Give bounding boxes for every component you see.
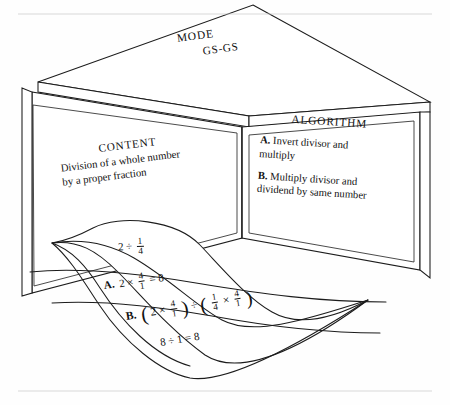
row-2-c-numerator: 4 <box>233 288 241 298</box>
algorithm-item-b: B. Multiply divisor and dividend by same… <box>257 168 368 202</box>
row-2-close-paren-1: ) <box>180 296 190 319</box>
algorithm-item-b-label: B. <box>258 169 268 181</box>
row-2-b-denominator: 4 <box>212 302 220 313</box>
row-1-operator: × <box>126 275 134 288</box>
row-2-middle-operator: ÷ <box>190 298 198 311</box>
algorithm-item-a: A. Invert divisor and multiply <box>259 133 370 167</box>
row-2-fraction-b: 1 4 <box>210 292 220 313</box>
banner-row-0: 2 ÷ 1 4 <box>117 237 146 258</box>
row-3-lead: 8 <box>159 335 166 348</box>
row-1-lead: 2 <box>118 277 125 290</box>
left-wall-thickness <box>22 88 32 296</box>
right-wall-thickness <box>420 112 430 278</box>
row-2-fraction-a: 4 1 <box>169 299 179 320</box>
row-0-operator: ÷ <box>126 240 133 252</box>
row-1-tail: = 8 <box>149 271 165 285</box>
row-2-fraction-c: 4 1 <box>233 288 243 309</box>
row-2-a-lead: 2 <box>150 305 158 318</box>
row-2-open-paren-2: ( <box>199 293 209 316</box>
row-2-c-denominator: 1 <box>234 298 242 309</box>
row-1-fraction: 4 1 <box>137 271 146 292</box>
box-and-banner-drawing <box>0 0 450 405</box>
row-2-a-numerator: 4 <box>169 299 177 309</box>
algorithm-text-block: ALGORITHM A. Invert divisor and multiply… <box>256 110 371 210</box>
row-0-denominator: 4 <box>137 246 144 257</box>
algorithm-item-a-line-2: multiply <box>259 147 369 167</box>
row-0-lead: 2 <box>118 240 124 252</box>
algorithm-item-a-label: A. <box>260 134 271 146</box>
figure-canvas: MODE GS-GS CONTENT Division of a whole n… <box>0 0 450 405</box>
row-1-denominator: 1 <box>138 280 146 291</box>
row-2-b-operator: × <box>222 293 230 306</box>
row-2-b-numerator: 1 <box>210 292 218 302</box>
row-0-numerator: 1 <box>136 236 143 246</box>
row-3-rhs: 1 <box>176 333 183 346</box>
row-1-label: A. <box>103 278 115 291</box>
row-3-tail: = 8 <box>184 330 200 344</box>
row-3-operator: ÷ <box>167 334 175 347</box>
row-2-a-denominator: 1 <box>170 308 178 319</box>
row-2-a-operator: × <box>158 303 166 316</box>
row-0-fraction: 1 4 <box>136 236 144 256</box>
row-2-label: B. <box>125 308 137 322</box>
row-1-numerator: 4 <box>137 271 145 281</box>
row-2-open-paren-1: ( <box>140 303 150 326</box>
